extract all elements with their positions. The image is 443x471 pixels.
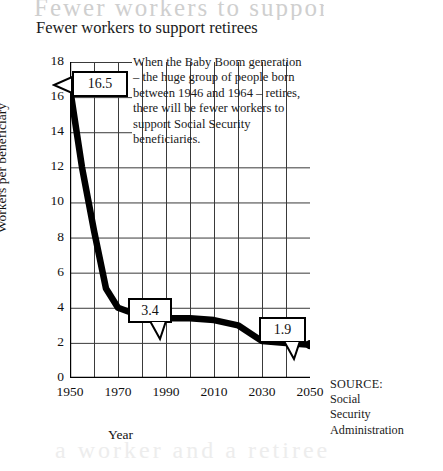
- y-tick-label: 18: [34, 53, 64, 69]
- y-tick-label: 0: [34, 369, 64, 385]
- annotation-line: When the Baby Boom generation: [133, 55, 333, 70]
- data-label-callout: 1.9: [259, 317, 306, 343]
- chart-title: Fewer workers to support retirees: [36, 18, 258, 38]
- y-tick-label: 14: [34, 123, 64, 139]
- data-label-callout: 3.4: [128, 298, 172, 323]
- source-note: SOURCE:SocialSecurityAdministration: [330, 377, 442, 438]
- y-tick-label: 10: [34, 193, 64, 209]
- source-line: Social: [330, 392, 442, 407]
- x-tick-label: 1970: [92, 384, 144, 400]
- source-label: SOURCE:: [330, 377, 442, 392]
- annotation-line: there will be fewer workers to: [133, 101, 333, 116]
- x-tick-label: 1990: [140, 384, 192, 400]
- source-line: Administration: [330, 423, 442, 438]
- callout-tail: [146, 321, 186, 361]
- x-tick-label: 2050: [284, 384, 336, 400]
- annotation-line: beneficiaries.: [133, 132, 333, 147]
- x-tick-label: 1950: [44, 384, 96, 400]
- source-line: Security: [330, 407, 442, 422]
- chart-annotation-text: When the Baby Boom generation– the huge …: [133, 55, 333, 147]
- y-tick-label: 2: [34, 334, 64, 350]
- callout-tail: [52, 73, 92, 113]
- scan-artifact-bottom: a worker and a retiree: [55, 437, 355, 463]
- y-axis-title: Workers per beneficiary: [0, 18, 10, 318]
- scan-artifact-top: Fewer workers to support retirees: [34, 0, 324, 20]
- y-tick-label: 8: [34, 229, 64, 245]
- callout-tail: [280, 341, 320, 381]
- annotation-line: support Social Security: [133, 117, 333, 132]
- y-tick-label: 12: [34, 158, 64, 174]
- annotation-line: between 1946 and 1964 – retires,: [133, 86, 333, 101]
- x-tick-label: 2010: [188, 384, 240, 400]
- y-tick-label: 4: [34, 299, 64, 315]
- y-tick-label: 6: [34, 264, 64, 280]
- x-tick-label: 2030: [236, 384, 288, 400]
- annotation-line: – the huge group of people born: [133, 70, 333, 85]
- chart-figure: Fewer workers to support retirees Fewer …: [0, 0, 443, 471]
